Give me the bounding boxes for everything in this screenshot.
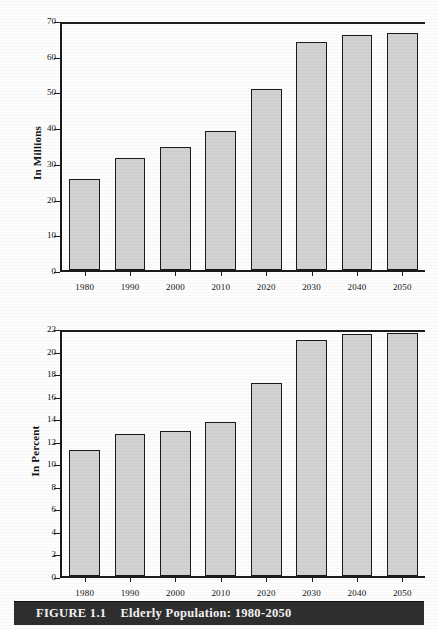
x-tick-label: 1980 [75, 282, 94, 293]
x-tick: 2030 [289, 276, 334, 294]
x-tick: 2050 [380, 276, 425, 294]
bar [160, 431, 191, 576]
bar-slot [289, 22, 334, 270]
bar [205, 422, 236, 576]
bar-slot [334, 22, 379, 270]
x-tick: 1990 [107, 276, 152, 294]
y-tick-label: 0 [52, 572, 57, 583]
x-axis-labels-percent: 19801990200020102020203020402050 [62, 582, 425, 600]
figure-caption-band: FIGURE 1.1Elderly Population: 1980-2050 [14, 601, 424, 625]
x-tick: 2020 [244, 276, 289, 294]
x-tick-mark [85, 578, 86, 582]
bar [296, 340, 327, 576]
x-tick-mark [402, 272, 403, 276]
y-tick-label: 22 [47, 324, 56, 335]
bar-slot [198, 330, 243, 576]
bar [115, 158, 146, 270]
bar-slot [334, 330, 379, 576]
bar [387, 33, 418, 270]
bar [205, 131, 236, 270]
x-tick-mark [175, 272, 176, 276]
x-tick-label: 2000 [166, 282, 185, 293]
bar-slot [62, 330, 107, 576]
y-tick-label: 10 [47, 230, 56, 241]
bar [251, 383, 282, 576]
bar-slot [107, 22, 152, 270]
x-axis-labels-millions: 19801990200020102020203020402050 [62, 276, 425, 294]
x-tick: 2010 [198, 276, 243, 294]
y-tick-label: 70 [47, 16, 56, 27]
y-tick-label: 30 [47, 159, 56, 170]
y-tick-label: 12 [47, 437, 56, 448]
x-tick-mark [175, 578, 176, 582]
x-tick: 1990 [107, 582, 152, 600]
plot-area-percent: 0246810121416182022 [60, 330, 425, 578]
x-tick-mark [266, 272, 267, 276]
bar [115, 434, 146, 576]
x-tick-mark [402, 578, 403, 582]
x-tick: 2000 [153, 276, 198, 294]
x-tick-mark [221, 272, 222, 276]
x-tick-label: 2040 [348, 588, 367, 599]
bar-slot [153, 330, 198, 576]
bar-slot [244, 22, 289, 270]
x-tick-label: 2040 [348, 282, 367, 293]
x-tick: 2040 [334, 582, 379, 600]
x-tick-mark [130, 272, 131, 276]
bar-slot [244, 330, 289, 576]
x-axis-line-millions [60, 270, 425, 272]
y-tick-label: 60 [47, 52, 56, 63]
x-tick-mark [130, 578, 131, 582]
x-tick-mark [312, 578, 313, 582]
x-tick-label: 2030 [302, 282, 321, 293]
x-tick-mark [357, 272, 358, 276]
x-tick: 2030 [289, 582, 334, 600]
x-tick-mark [312, 272, 313, 276]
x-tick-label: 2030 [302, 588, 321, 599]
x-tick-mark [221, 578, 222, 582]
bar-slot [380, 330, 425, 576]
bar [251, 89, 282, 270]
y-tick-label: 4 [52, 527, 57, 538]
bar-slot [62, 22, 107, 270]
bar [387, 333, 418, 576]
x-axis-line-percent [60, 576, 425, 578]
bar-group-percent [62, 330, 425, 576]
plot-area-millions: 010203040506070 [60, 22, 425, 272]
x-tick-label: 2050 [393, 282, 412, 293]
x-tick-label: 1990 [121, 588, 140, 599]
x-tick: 2040 [334, 276, 379, 294]
x-tick-label: 2010 [211, 588, 230, 599]
y-tick-label: 18 [47, 369, 56, 380]
x-tick: 1980 [62, 276, 107, 294]
figure-container: In Millions 010203040506070 198019902000… [0, 0, 438, 629]
x-tick: 2010 [198, 582, 243, 600]
y-tick-label: 40 [47, 123, 56, 134]
x-tick-label: 2010 [211, 282, 230, 293]
bar-slot [289, 330, 334, 576]
bar-slot [198, 22, 243, 270]
bar [296, 42, 327, 270]
bar-slot [107, 330, 152, 576]
bar-slot [153, 22, 198, 270]
bar [342, 334, 373, 576]
figure-title: Elderly Population: 1980-2050 [120, 606, 291, 620]
y-tick-label: 50 [47, 87, 56, 98]
figure-caption: FIGURE 1.1Elderly Population: 1980-2050 [14, 606, 292, 621]
x-tick: 2000 [153, 582, 198, 600]
y-tick-label: 20 [47, 347, 56, 358]
y-axis-title-millions: In Millions [31, 126, 43, 180]
x-tick-label: 2020 [257, 588, 276, 599]
figure-number: FIGURE 1.1 [36, 606, 106, 620]
bar [160, 147, 191, 270]
x-tick-mark [85, 272, 86, 276]
bar [69, 179, 100, 270]
x-tick-label: 2050 [393, 588, 412, 599]
bar-group-millions [62, 22, 425, 270]
bar [69, 450, 100, 576]
y-tick-label: 8 [52, 482, 57, 493]
x-tick: 2020 [244, 582, 289, 600]
chart-panel-millions: In Millions 010203040506070 198019902000… [0, 0, 438, 305]
y-tick-label: 16 [47, 392, 56, 403]
y-tick-label: 10 [47, 459, 56, 470]
